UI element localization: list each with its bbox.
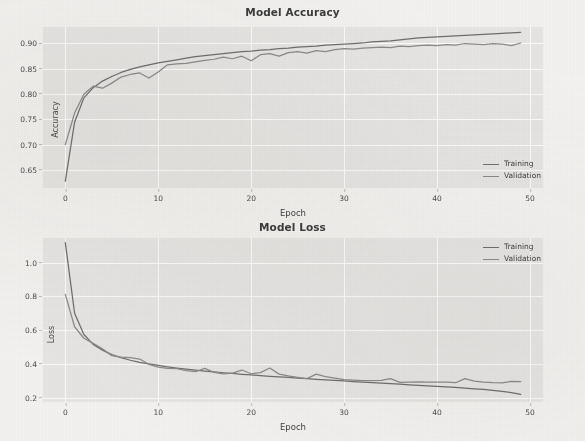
legend-item-validation[interactable]: Validation <box>483 253 541 265</box>
training-history-figure: Model Accuracy Accuracy 0.65 0.70 0.75 0… <box>0 0 585 441</box>
accuracy-y-tick: 0.90 <box>20 39 37 48</box>
loss-y-tick: 0.6 <box>25 326 37 335</box>
accuracy-series-svg <box>43 27 543 188</box>
loss-plot-area: Loss 0.2 0.4 0.6 0.8 1.0 0 10 20 30 40 5… <box>43 238 543 402</box>
legend-label-training: Training <box>504 241 534 253</box>
accuracy-x-tick-label: 30 <box>339 194 349 203</box>
legend-swatch-training <box>483 247 499 248</box>
loss-x-tick: 10 <box>153 408 163 417</box>
loss-y-axis-label: Loss <box>47 311 56 359</box>
loss-y-tick-label: 0.8 <box>25 292 37 301</box>
loss-y-tick-label: 0.2 <box>25 393 37 402</box>
loss-series-svg <box>43 238 543 402</box>
loss-legend: Training Validation <box>483 241 541 265</box>
loss-x-axis-label: Epoch <box>43 422 543 432</box>
loss-x-tick: 30 <box>339 408 349 417</box>
accuracy-y-tick-label: 0.65 <box>20 165 37 174</box>
loss-title: Model Loss <box>0 221 585 233</box>
accuracy-y-axis-label: Accuracy <box>51 90 60 150</box>
loss-x-tick: 20 <box>246 408 256 417</box>
legend-swatch-validation <box>483 176 499 177</box>
accuracy-y-tick-label: 0.90 <box>20 39 37 48</box>
accuracy-y-tick: 0.85 <box>20 64 37 73</box>
accuracy-x-tick: 10 <box>153 194 163 203</box>
legend-label-validation: Validation <box>504 170 541 182</box>
accuracy-y-tick: 0.65 <box>20 165 37 174</box>
accuracy-x-tick-label: 10 <box>153 194 163 203</box>
loss-x-tick: 40 <box>432 408 442 417</box>
loss-x-tick-label: 10 <box>153 408 163 417</box>
accuracy-panel: Model Accuracy Accuracy 0.65 0.70 0.75 0… <box>0 0 585 218</box>
loss-x-tick-label: 40 <box>432 408 442 417</box>
series-line-training <box>65 243 520 395</box>
accuracy-y-tick-label: 0.85 <box>20 64 37 73</box>
accuracy-x-tick-label: 20 <box>246 194 256 203</box>
accuracy-y-tick: 0.70 <box>20 140 37 149</box>
loss-x-tick-label: 50 <box>525 408 535 417</box>
legend-item-training[interactable]: Training <box>483 241 541 253</box>
accuracy-y-tick-label: 0.75 <box>20 115 37 124</box>
accuracy-x-tick-label: 50 <box>525 194 535 203</box>
loss-x-tick-label: 20 <box>246 408 256 417</box>
accuracy-x-tick: 50 <box>525 194 535 203</box>
accuracy-plot-area: Accuracy 0.65 0.70 0.75 0.80 0.85 0.90 0… <box>43 27 543 188</box>
loss-x-tick-label: 30 <box>339 408 349 417</box>
accuracy-x-tick: 40 <box>432 194 442 203</box>
accuracy-y-tick-label: 0.70 <box>20 140 37 149</box>
accuracy-x-tick: 20 <box>246 194 256 203</box>
loss-y-tick: 0.8 <box>25 292 37 301</box>
accuracy-x-tick: 0 <box>63 194 68 203</box>
legend-label-validation: Validation <box>504 253 541 265</box>
loss-panel: Model Loss Loss 0.2 0.4 0.6 0.8 1.0 0 10… <box>0 215 585 441</box>
legend-swatch-validation <box>483 259 499 260</box>
series-line-training <box>65 32 520 181</box>
legend-label-training: Training <box>504 158 534 170</box>
loss-y-tick: 0.2 <box>25 393 37 402</box>
loss-y-tick: 0.4 <box>25 359 37 368</box>
loss-x-tick: 50 <box>525 408 535 417</box>
accuracy-legend: Training Validation <box>483 158 541 182</box>
loss-y-tick-label: 0.6 <box>25 326 37 335</box>
loss-y-tick-label: 0.4 <box>25 359 37 368</box>
legend-item-validation[interactable]: Validation <box>483 170 541 182</box>
accuracy-x-tick-label: 0 <box>63 194 68 203</box>
loss-y-tick: 1.0 <box>25 258 37 267</box>
series-line-validation <box>65 294 520 383</box>
accuracy-x-tick: 30 <box>339 194 349 203</box>
accuracy-y-tick: 0.75 <box>20 115 37 124</box>
legend-item-training[interactable]: Training <box>483 158 541 170</box>
accuracy-title: Model Accuracy <box>0 6 585 18</box>
loss-x-tick-label: 0 <box>63 408 68 417</box>
legend-swatch-training <box>483 164 499 165</box>
series-line-validation <box>65 43 520 145</box>
accuracy-x-tick-label: 40 <box>432 194 442 203</box>
accuracy-y-tick-label: 0.80 <box>20 89 37 98</box>
loss-y-tick-label: 1.0 <box>25 258 37 267</box>
loss-x-tick: 0 <box>63 408 68 417</box>
accuracy-y-tick: 0.80 <box>20 89 37 98</box>
